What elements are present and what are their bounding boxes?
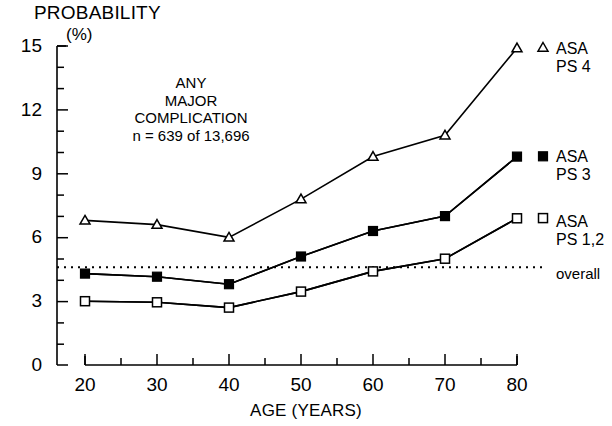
legend-label-asa-ps-3: ASA PS 3 — [556, 148, 612, 184]
axis-lines — [57, 46, 517, 365]
series-asa-ps-4-markers — [80, 43, 522, 241]
legend-marker-asa-ps-3 — [539, 152, 548, 161]
series-asa-ps-3-line — [85, 157, 517, 285]
data-point-marker — [441, 254, 450, 263]
series-asa-ps-3-line-segment — [85, 157, 517, 285]
data-point-marker — [297, 287, 306, 296]
data-point-marker — [512, 43, 522, 52]
data-point-marker — [153, 272, 162, 281]
legend-marker-asa-ps-1-2 — [539, 214, 548, 223]
data-point-marker — [297, 252, 306, 261]
data-point-marker — [513, 214, 522, 223]
data-point-marker — [369, 227, 378, 236]
data-point-marker — [81, 269, 90, 278]
y-tick-marks — [57, 46, 68, 365]
legend-label-asa-ps-1-2: ASA PS 1,2 — [556, 213, 612, 249]
data-point-marker — [441, 212, 450, 221]
data-point-marker — [153, 298, 162, 307]
data-point-marker — [225, 303, 234, 312]
data-point-marker — [81, 297, 90, 306]
data-point-marker — [225, 280, 234, 289]
data-point-marker — [369, 267, 378, 276]
plot-area — [0, 0, 612, 426]
legend-marker-asa-ps-4 — [538, 43, 548, 52]
legend-label-overall: overall — [556, 265, 600, 282]
data-point-marker — [296, 194, 306, 203]
data-point-marker — [513, 152, 522, 161]
legend-label-asa-ps-4: ASA PS 4 — [556, 40, 612, 76]
data-point-marker — [80, 215, 90, 224]
series-asa-ps-3-markers — [81, 152, 522, 289]
series-asa-ps-4-line — [85, 48, 517, 237]
legend-markers — [538, 43, 548, 223]
chart-figure: PROBABILITY (%) ANY MAJOR COMPLICATION n… — [0, 0, 612, 426]
x-tick-marks — [85, 354, 517, 365]
series-asa-ps-1-2-markers — [81, 214, 522, 312]
